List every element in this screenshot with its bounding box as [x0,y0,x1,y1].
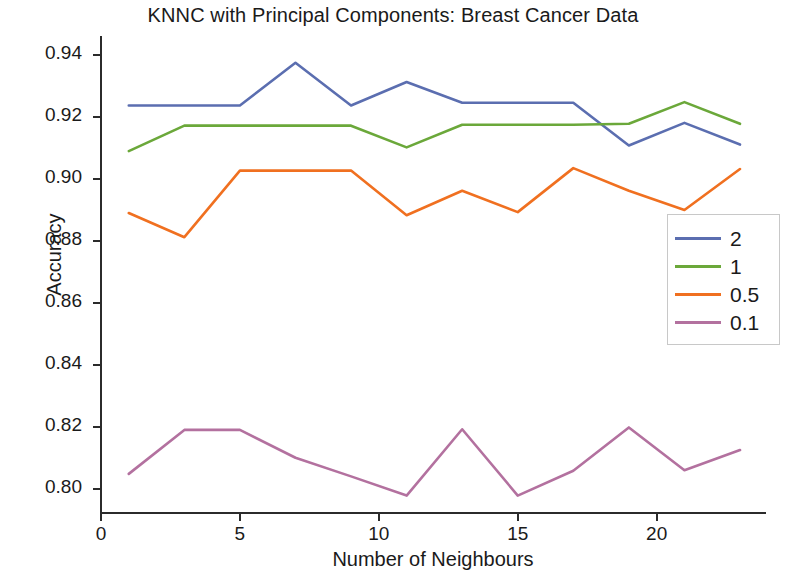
x-tick-label: 20 [637,523,677,545]
legend-label: 2 [730,228,742,249]
y-tick-mark [93,488,100,490]
x-tick-mark [517,514,519,521]
legend-item[interactable]: 1 [675,252,772,280]
x-tick-mark [100,514,102,521]
legend-label: 1 [730,256,742,277]
x-tick-label: 10 [359,523,399,545]
x-tick-label: 5 [220,523,260,545]
x-tick-label: 15 [498,523,538,545]
legend-swatch-2 [675,237,721,240]
y-tick-label: 0.82 [20,414,82,436]
x-tick-mark [378,514,380,521]
y-tick-label: 0.84 [20,352,82,374]
legend-swatch-1 [675,265,721,268]
chart-figure: KNNC with Principal Components: Breast C… [0,0,786,581]
x-tick-label: 0 [81,523,121,545]
legend: 210.50.1 [667,214,780,345]
y-tick-mark [93,178,100,180]
y-tick-mark [93,54,100,56]
legend-swatch-0.1 [675,321,721,324]
legend-label: 0.5 [730,284,759,305]
line-series-2 [129,63,740,146]
y-tick-mark [93,364,100,366]
series-lines [101,38,765,512]
line-series-1 [129,102,740,151]
plot-area [101,38,765,512]
line-series-0.1 [129,427,740,495]
y-tick-mark [93,116,100,118]
legend-item[interactable]: 0.1 [675,308,772,336]
legend-item[interactable]: 2 [675,224,772,252]
y-tick-label: 0.92 [20,104,82,126]
chart-title: KNNC with Principal Components: Breast C… [0,4,786,27]
y-tick-mark [93,240,100,242]
x-axis-line [100,512,766,514]
line-series-0.5 [129,168,740,237]
y-tick-label: 0.94 [20,42,82,64]
legend-label: 0.1 [730,312,759,333]
legend-item[interactable]: 0.5 [675,280,772,308]
legend-swatch-0.5 [675,293,721,296]
x-tick-mark [656,514,658,521]
x-tick-mark [239,514,241,521]
y-tick-label: 0.80 [20,476,82,498]
y-tick-mark [93,426,100,428]
y-tick-mark [93,302,100,304]
x-axis-label: Number of Neighbours [101,548,765,571]
y-axis-label: Accuracy [43,185,66,325]
